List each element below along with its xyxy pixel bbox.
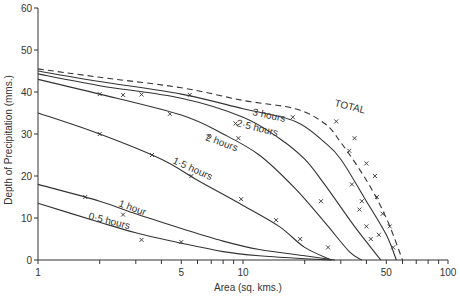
- x-marker: [334, 119, 338, 123]
- x-marker: [140, 238, 144, 242]
- curve-labels: TOTAL 3 hours 2·5 hours 2 hours 1·5 hour…: [88, 97, 367, 231]
- x-axis-label: Area (sq. kms.): [214, 282, 282, 293]
- label-1-hour: 1 hour: [117, 198, 148, 218]
- y-tick-labels: 0102030405060: [21, 3, 33, 266]
- curve-total: [38, 69, 403, 260]
- x-marker: [168, 112, 172, 116]
- curve-0-5-hours: [38, 203, 331, 260]
- x-marker: [239, 197, 243, 201]
- x-marker: [274, 218, 278, 222]
- x-tick-labels: 151050100: [35, 267, 457, 278]
- x-marker: [350, 182, 354, 186]
- x-marker: [357, 208, 361, 212]
- x-tick-label: 1: [35, 267, 41, 278]
- x-marker: [298, 237, 302, 241]
- x-marker: [319, 199, 323, 203]
- x-tick-label: 10: [237, 267, 249, 278]
- y-axis-label: Depth of Precipitation (mms.): [3, 75, 14, 205]
- x-tick-label: 50: [381, 267, 393, 278]
- x-tick-label: 100: [440, 267, 457, 278]
- x-marker: [121, 213, 125, 217]
- label-2-hours: 2 hours: [204, 132, 239, 154]
- y-tick-label: 50: [21, 45, 33, 56]
- x-marker: [377, 233, 381, 237]
- y-tick-label: 40: [21, 87, 33, 98]
- y-tick-label: 20: [21, 171, 33, 182]
- x-marker: [369, 237, 373, 241]
- y-tick-label: 10: [21, 213, 33, 224]
- x-marker: [140, 93, 144, 97]
- x-tick-label: 5: [179, 267, 185, 278]
- curve-2-5-hours: [38, 74, 381, 260]
- y-tick-label: 30: [21, 129, 33, 140]
- x-marker: [291, 115, 295, 119]
- x-ticks: [38, 260, 448, 264]
- curve-1-hour: [38, 184, 335, 260]
- x-marker: [364, 224, 368, 228]
- x-marker: [236, 136, 240, 140]
- curve-1-5-hours: [38, 113, 331, 260]
- x-marker: [347, 149, 351, 153]
- y-tick-label: 60: [21, 3, 33, 14]
- label-total: TOTAL: [334, 97, 367, 115]
- x-marker: [121, 93, 125, 97]
- axes: [34, 8, 448, 264]
- y-tick-label: 0: [26, 255, 32, 266]
- x-marker: [364, 161, 368, 165]
- curves: [38, 69, 403, 260]
- x-marker: [373, 174, 377, 178]
- x-marker: [326, 245, 330, 249]
- x-marker: [360, 199, 364, 203]
- y-ticks: [34, 8, 38, 260]
- x-marker: [353, 136, 357, 140]
- precipitation-depth-area-chart: 0102030405060 151050100 Depth of Precipi…: [0, 0, 460, 297]
